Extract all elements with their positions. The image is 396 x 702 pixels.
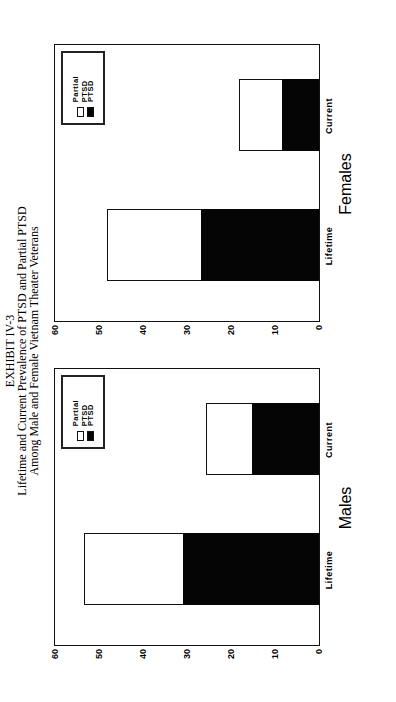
females-panel-title: Females — [337, 46, 355, 322]
males-ytick: 60 — [51, 649, 60, 665]
males-ytick: 40 — [139, 649, 148, 665]
legend-swatch — [77, 431, 84, 441]
males-xlabel-lifetime: Lifetime — [324, 530, 334, 610]
females-ytick: 0 — [315, 325, 324, 341]
females-partial-segment — [107, 209, 201, 281]
females-ytick: 30 — [183, 325, 192, 341]
females-ytick: 40 — [139, 325, 148, 341]
males-ptsd-segment — [252, 403, 319, 475]
exhibit-caption-line2: Among Male and Female Vietnam Theater Ve… — [28, 0, 40, 702]
males-legend: Partial PTSDPTSD — [61, 375, 105, 449]
females-xlabel-current: Current — [324, 76, 334, 156]
males-panel-title: Males — [337, 370, 355, 646]
males-plot-area: 0102030405060Partial PTSDPTSD — [54, 368, 320, 646]
females-legend: Partial PTSDPTSD — [61, 51, 105, 125]
males-ytick: 20 — [227, 649, 236, 665]
females-plot-area: 0102030405060Partial PTSDPTSD — [54, 44, 320, 322]
males-partial-segment — [206, 403, 253, 475]
rotated-page: EXHIBIT IV-3 Lifetime and Current Preval… — [0, 0, 396, 702]
males-ptsd-segment — [183, 533, 319, 605]
males-ytick: 10 — [271, 649, 280, 665]
legend-label: PTSD — [86, 80, 95, 102]
legend-label: PTSD — [86, 404, 95, 426]
males-ytick: 50 — [95, 649, 104, 665]
males-xlabel-current: Current — [324, 400, 334, 480]
females-ytick: 20 — [227, 325, 236, 341]
legend-swatch — [87, 431, 94, 441]
legend-item: PTSD — [86, 404, 95, 441]
legend-swatch — [77, 107, 84, 117]
females-ptsd-segment — [201, 209, 319, 281]
exhibit-title: EXHIBIT IV-3 Lifetime and Current Preval… — [4, 0, 40, 702]
males-ytick: 0 — [315, 649, 324, 665]
males-bar-lifetime — [84, 533, 319, 605]
females-bar-current — [239, 79, 319, 151]
males-partial-segment — [84, 533, 184, 605]
legend-swatch — [87, 107, 94, 117]
females-ptsd-segment — [282, 79, 319, 151]
males-ytick: 30 — [183, 649, 192, 665]
females-bar-lifetime — [107, 209, 319, 281]
males-bar-current — [206, 403, 319, 475]
females-partial-segment — [239, 79, 283, 151]
females-ytick: 60 — [51, 325, 60, 341]
females-xlabel-lifetime: Lifetime — [324, 206, 334, 286]
legend-item: PTSD — [86, 80, 95, 117]
males-chart: 0102030405060Partial PTSDPTSD Lifetime C… — [54, 386, 334, 666]
females-ytick: 10 — [271, 325, 280, 341]
females-ytick: 50 — [95, 325, 104, 341]
females-chart: 0102030405060Partial PTSDPTSD Lifetime C… — [54, 62, 334, 342]
